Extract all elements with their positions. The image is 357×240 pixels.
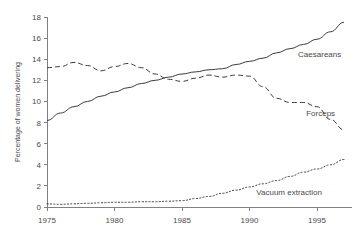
x-axis-ticks: 19751980198519901995 [38, 207, 326, 225]
y-axis-ticks: 024681012141618 [32, 13, 47, 212]
series-label-vacuum-extraction: Vacuum extraction [256, 188, 322, 197]
series-line-forceps [47, 62, 344, 130]
y-tick-label: 2 [37, 182, 42, 191]
line-chart: 024681012141618 19751980198519901995 Cae… [0, 0, 357, 240]
y-tick-label: 4 [37, 161, 42, 170]
y-tick-label: 6 [37, 140, 42, 149]
y-tick-label: 16 [32, 34, 41, 43]
y-axis-title: Percentage of women delivering [14, 62, 22, 162]
y-tick-label: 8 [37, 119, 42, 128]
chart-page: 024681012141618 19751980198519901995 Cae… [0, 0, 357, 240]
y-tick-label: 10 [32, 97, 41, 106]
series-annotations: CaesareansForcepsVacuum extraction [256, 50, 341, 197]
y-tick-label: 14 [32, 55, 41, 64]
x-tick-label: 1975 [38, 216, 56, 225]
x-tick-label: 1985 [173, 216, 191, 225]
x-tick-label: 1995 [308, 216, 326, 225]
series-line-vacuum-extraction [47, 160, 344, 205]
x-tick-label: 1990 [241, 216, 259, 225]
y-tick-label: 18 [32, 13, 41, 22]
x-tick-label: 1980 [106, 216, 124, 225]
series-line-caesareans [47, 22, 344, 120]
y-tick-label: 12 [32, 76, 41, 85]
series-label-forceps: Forceps [306, 109, 335, 118]
y-tick-label: 0 [37, 203, 42, 212]
series-label-caesareans: Caesareans [298, 50, 341, 59]
